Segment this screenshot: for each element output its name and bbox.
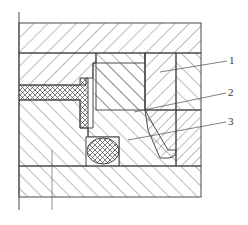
oval-seal-3 — [87, 138, 119, 164]
bottom-plate — [19, 166, 201, 197]
part-1 — [145, 53, 176, 110]
right-ring-lower — [176, 110, 201, 166]
right-ring-upper — [176, 53, 201, 110]
top-plate — [19, 23, 201, 53]
callout-label-2: 2 — [228, 87, 234, 98]
lower-housing — [19, 100, 88, 166]
callout-label-3: 3 — [228, 116, 234, 127]
seal-cross-section-drawing — [0, 0, 248, 225]
callout-label-1: 1 — [229, 55, 235, 66]
